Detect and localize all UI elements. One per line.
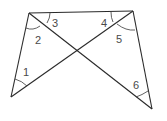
angle-label-2: 2 — [35, 34, 41, 46]
angle-arc-1 — [15, 79, 27, 86]
angle-label-4: 4 — [101, 17, 107, 29]
angle-arc-2 — [26, 26, 40, 29]
geometry-diagram: 1 2 3 4 5 6 — [0, 0, 167, 121]
angle-arc-4 — [111, 12, 113, 22]
diagonal-tl-br — [29, 13, 152, 109]
figure-lines — [11, 11, 152, 109]
top-edge — [29, 11, 133, 13]
angle-label-1: 1 — [23, 66, 29, 78]
angle-label-6: 6 — [133, 79, 139, 91]
left-edge — [11, 13, 29, 97]
angle-arc-5 — [117, 24, 135, 30]
diagonal-bl-tr — [11, 11, 133, 97]
angle-label-5: 5 — [116, 33, 122, 45]
angle-arc-6 — [136, 91, 148, 97]
angle-label-3: 3 — [52, 17, 58, 29]
angle-arc-3 — [47, 13, 50, 23]
